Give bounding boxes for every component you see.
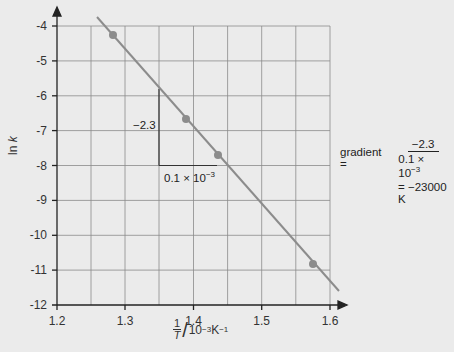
data-point <box>182 115 190 123</box>
svg-text:1.2: 1.2 <box>49 314 66 328</box>
svg-text:-11: -11 <box>31 263 48 277</box>
gradient-triangle <box>159 89 217 166</box>
run-label: 0.1 × 10−3 <box>164 170 216 184</box>
data-point <box>309 260 317 268</box>
data-point <box>214 151 222 159</box>
svg-text:-4: -4 <box>36 19 47 33</box>
svg-text:-12: -12 <box>30 298 48 312</box>
svg-text:-5: -5 <box>36 54 47 68</box>
svg-text:-10: -10 <box>30 228 48 242</box>
y-axis-label: ln k <box>6 136 20 155</box>
svg-text:1.6: 1.6 <box>322 314 339 328</box>
svg-text:1.5: 1.5 <box>253 314 270 328</box>
y-tick-labels: -4 -5 -6 -7 -8 -9 -10 -11 -12 <box>30 19 48 312</box>
chart-figure: -4 -5 -6 -7 -8 -9 -10 -11 -12 1.2 1.3 1.… <box>0 0 454 352</box>
rise-label: −2.3 <box>133 119 156 131</box>
x-axis-fraction: 1 T <box>173 318 181 341</box>
svg-text:-8: -8 <box>36 159 47 173</box>
svg-text:-7: -7 <box>36 124 47 138</box>
data-point <box>109 31 117 39</box>
svg-text:1.3: 1.3 <box>117 314 134 328</box>
gradient-annotation: gradient = −2.3 0.1 × 10−3 = −23000 K <box>340 138 452 205</box>
svg-text:-6: -6 <box>36 89 47 103</box>
axes <box>52 7 347 310</box>
x-axis-label: 1 T / 10−3 K−1 <box>173 318 228 341</box>
svg-text:-9: -9 <box>36 193 47 207</box>
